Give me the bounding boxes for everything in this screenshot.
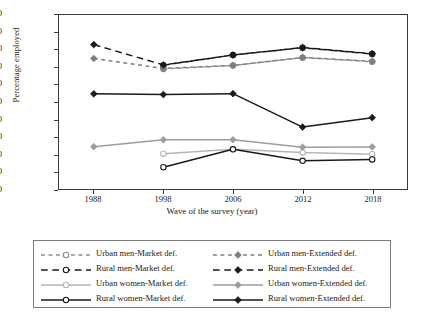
y-tick-label: 70 [0, 62, 2, 71]
legend-item: Rural women-Extended def. [212, 292, 384, 304]
data-point-marker [300, 158, 305, 163]
x-axis-label: Wave of the survey (year) [0, 206, 424, 216]
y-tick-label: 10 [0, 167, 2, 176]
data-point-marker [230, 52, 237, 59]
legend-item: Rural men-Extended def. [212, 262, 384, 274]
data-point-marker [161, 151, 166, 156]
data-point-marker [63, 297, 68, 302]
y-tick-label: 0 [0, 185, 2, 194]
x-tick-label: 2012 [273, 194, 333, 204]
data-point-marker [370, 157, 375, 162]
data-point-marker [369, 114, 376, 121]
legend-item: Urban men-Extended def. [212, 247, 384, 259]
data-point-marker [90, 143, 97, 150]
series-line [163, 149, 372, 154]
data-point-marker [299, 144, 306, 151]
data-point-marker [235, 281, 242, 288]
chart-figure: Percentage employed 10090807060504030201… [0, 0, 424, 319]
data-point-marker [230, 90, 237, 97]
legend-item: Urban women-Market def. [40, 277, 212, 289]
legend-box: Urban men-Market def.Urban men-Extended … [33, 240, 391, 308]
series-canvas [59, 15, 407, 189]
data-point-marker [299, 124, 306, 131]
data-point-marker [90, 55, 97, 62]
data-point-marker [235, 296, 242, 303]
data-point-marker [160, 136, 167, 143]
x-tick-label: 1998 [133, 194, 193, 204]
x-tick-label: 2018 [343, 194, 403, 204]
legend-swatch [212, 292, 264, 304]
data-point-marker [369, 144, 376, 151]
series-rural-men-market-def [161, 45, 375, 68]
data-point-marker [160, 91, 167, 98]
y-tick-label: 60 [0, 79, 2, 88]
legend-label: Urban women-Extended def. [268, 278, 368, 288]
data-point-marker [63, 282, 68, 287]
data-point-marker [235, 266, 242, 273]
legend-swatch [212, 262, 264, 274]
legend-label: Rural men-Extended def. [268, 263, 355, 273]
legend-swatch [40, 277, 92, 289]
x-tick-mark [163, 190, 164, 194]
y-tick-mark [54, 190, 58, 191]
legend-item: Urban women-Extended def. [212, 277, 384, 289]
legend-label: Urban men-Market def. [96, 248, 177, 258]
x-tick-label: 2006 [203, 194, 263, 204]
legend-swatch [212, 247, 264, 259]
x-tick-mark [233, 190, 234, 194]
y-tick-label: 20 [0, 150, 2, 159]
data-point-marker [230, 136, 237, 143]
y-axis-label: Percentage employed [11, 5, 21, 125]
legend-label: Rural men-Market def. [96, 263, 175, 273]
y-tick-label: 30 [0, 132, 2, 141]
data-point-marker [230, 147, 235, 152]
data-point-marker [230, 62, 237, 69]
x-tick-label: 1988 [63, 194, 123, 204]
legend-label: Urban men-Extended def. [268, 248, 357, 258]
series-line [94, 94, 372, 127]
y-tick-label: 100 [0, 9, 2, 18]
data-point-marker [235, 251, 242, 258]
plot-area [58, 14, 408, 190]
x-tick-mark [93, 190, 94, 194]
data-point-marker [63, 252, 68, 257]
x-tick-mark [303, 190, 304, 194]
series-rural-women-market-def [161, 147, 375, 170]
legend-item: Rural men-Market def. [40, 262, 212, 274]
y-tick-label: 90 [0, 27, 2, 36]
legend-label: Rural women-Market def. [96, 293, 186, 303]
data-point-marker [161, 165, 166, 170]
y-tick-label: 80 [0, 44, 2, 53]
series-rural-women-extended-def [90, 90, 375, 130]
series-urban-men-market-def [161, 55, 375, 72]
data-point-marker [63, 267, 68, 272]
legend-swatch [40, 262, 92, 274]
data-point-marker [90, 90, 97, 97]
legend-label: Rural women-Extended def. [268, 293, 365, 303]
legend-swatch [40, 247, 92, 259]
legend-label: Urban women-Market def. [96, 278, 188, 288]
legend-item: Rural women-Market def. [40, 292, 212, 304]
legend-grid: Urban men-Market def.Urban men-Extended … [40, 245, 384, 305]
x-tick-mark [373, 190, 374, 194]
legend-item: Urban men-Market def. [40, 247, 212, 259]
data-point-marker [370, 152, 375, 157]
legend-swatch [40, 292, 92, 304]
y-tick-label: 50 [0, 97, 2, 106]
y-tick-label: 40 [0, 115, 2, 124]
data-point-marker [90, 41, 97, 48]
legend-swatch [212, 277, 264, 289]
plot-area-wrapper: Percentage employed 10090807060504030201… [0, 0, 424, 215]
